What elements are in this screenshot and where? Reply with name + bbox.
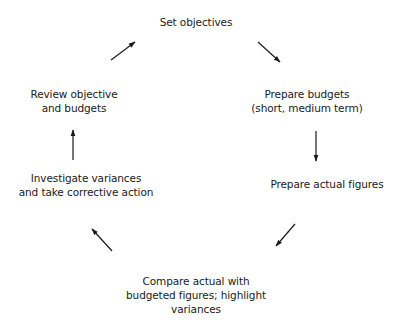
- arrow-up-left-icon: [92, 229, 112, 251]
- cycle-arrows: [0, 0, 406, 324]
- arrow-down-left-icon: [276, 224, 295, 246]
- arrow-down-right-icon: [258, 42, 280, 62]
- arrow-up-right-icon: [111, 42, 135, 60]
